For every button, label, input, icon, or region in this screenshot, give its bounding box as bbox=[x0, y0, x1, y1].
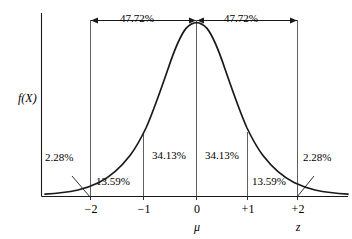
span-label-right: 47.72% bbox=[224, 13, 258, 24]
normal-distribution-figure: f(X) 47.72% 47.72% 2.28% 13.59% 34.13% 3… bbox=[0, 0, 352, 239]
mean-symbol-label: μ bbox=[186, 221, 208, 233]
tick-label-z-plus-1: +1 bbox=[237, 203, 259, 215]
tick-label-z-zero: 0 bbox=[186, 203, 208, 215]
area-label-minus1-to-zero: 34.13% bbox=[152, 150, 186, 161]
leader-line-right-tail bbox=[297, 176, 314, 197]
span-label-left: 47.72% bbox=[120, 13, 154, 24]
area-label-zero-to-plus1: 34.13% bbox=[205, 150, 239, 161]
area-label-minus2-to-minus1: 13.59% bbox=[96, 176, 130, 187]
area-label-plus1-to-plus2: 13.59% bbox=[252, 176, 286, 187]
tick-label-z-minus-2: −2 bbox=[80, 203, 102, 215]
area-label-right-tail: 2.28% bbox=[303, 152, 331, 163]
area-label-left-tail: 2.28% bbox=[45, 152, 73, 163]
y-axis-label: f(X) bbox=[18, 92, 37, 104]
tick-label-z-minus-1: −1 bbox=[133, 203, 155, 215]
x-axis-variable-label: z bbox=[287, 221, 309, 233]
tick-label-z-plus-2: +2 bbox=[287, 203, 309, 215]
